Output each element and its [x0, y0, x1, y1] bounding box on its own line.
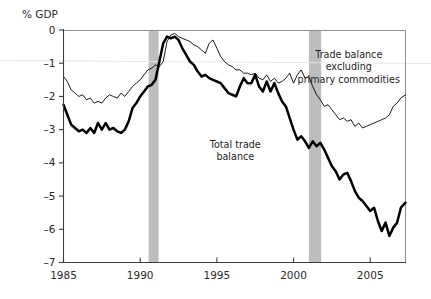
y-tick-label: –6: [44, 223, 56, 235]
x-tick-label: 2000: [280, 269, 307, 281]
x-tick-label: 2005: [357, 269, 384, 281]
y-tick-label: –4: [44, 156, 56, 168]
trade-balance-line-chart: 0–1–2–3–4–5–6–7 19851990199520002005 % G…: [0, 0, 431, 299]
recession-1990-1991: [149, 30, 159, 263]
x-tick-label: 1995: [203, 269, 230, 281]
y-axis-title: % GDP: [22, 8, 58, 20]
y-tick-label: –1: [44, 57, 56, 69]
total-trade-balance-label: Total tradebalance: [209, 139, 261, 162]
x-tick-label: 1985: [50, 269, 77, 281]
y-tick-label: –3: [44, 123, 56, 135]
y-tick-label: –2: [44, 90, 56, 102]
x-tick-label: 1990: [127, 269, 154, 281]
y-tick-label: –5: [44, 190, 56, 202]
y-tick-label: –7: [44, 256, 56, 268]
chart-container: 0–1–2–3–4–5–6–7 19851990199520002005 % G…: [0, 0, 431, 299]
y-tick-label: 0: [49, 24, 56, 36]
